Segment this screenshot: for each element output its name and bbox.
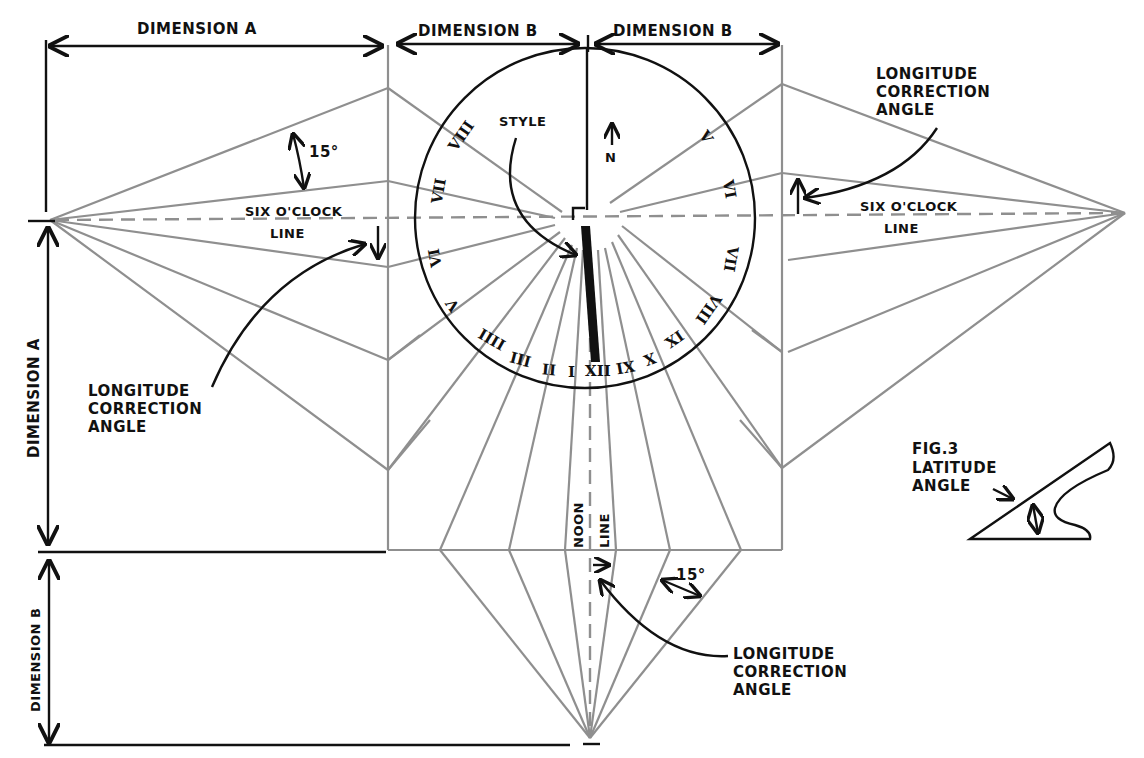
angle-15-top-label: 15° (309, 143, 339, 161)
right-angle-mark (573, 208, 585, 220)
left-hour-line (50, 220, 388, 267)
left-longitude-leader (212, 244, 365, 387)
six-oclock-left-label-1: SIX O'CLOCK (245, 204, 342, 219)
right-hour-line (788, 213, 1125, 352)
fig3-caption: LATITUDE ANGLE (912, 459, 997, 495)
noon-label-1: NOON (571, 502, 586, 548)
dial-line (598, 250, 616, 550)
dial-line (612, 242, 741, 550)
dial-line (388, 238, 565, 470)
dimension-b-vertical-label: DIMENSION B (28, 608, 43, 712)
hour-numeral: II (541, 359, 557, 378)
dial-line (388, 88, 562, 212)
longitude-correction-bottom-label: LONGITUDE CORRECTION ANGLE (733, 645, 847, 699)
fig3-title: FIG.3 (912, 440, 959, 458)
connector (388, 420, 430, 470)
fig3-latitude-arrow (1033, 505, 1038, 533)
dial-line (388, 225, 555, 267)
dial-circle (415, 48, 755, 388)
six-oclock-left-label-2: LINE (270, 226, 305, 241)
dimension-b-left-label: DIMENSION B (418, 22, 538, 40)
dimension-a-top-label: DIMENSION A (137, 20, 257, 38)
hour-numeral: XI (615, 357, 636, 378)
style-leader (510, 138, 576, 255)
six-oclock-right-label-2: LINE (884, 221, 919, 236)
left-hour-line (50, 220, 388, 360)
dial-line (440, 245, 572, 550)
connector (752, 330, 782, 352)
style-label: STYLE (499, 114, 546, 129)
six-oclock-right-label-1: SIX O'CLOCK (860, 199, 957, 214)
right-hour-line (782, 213, 1125, 468)
north-label: N (605, 150, 616, 165)
style-gnomon (581, 226, 600, 362)
hour-numeral: XII (585, 362, 611, 380)
six-oclock-line (55, 213, 1120, 220)
right-hour-line (788, 213, 1125, 260)
dial-line (388, 181, 555, 218)
angle-15-bottom-label: 15° (676, 566, 706, 584)
noon-label-2: LINE (597, 513, 612, 548)
dial-line (610, 84, 782, 203)
hour-numeral: VI (719, 178, 740, 199)
connector (388, 335, 420, 360)
bottom-hour-line (440, 550, 590, 738)
dimension-b-right-label: DIMENSION B (613, 22, 733, 40)
angle-15-top-arrow (293, 134, 304, 188)
longitude-correction-left-label: LONGITUDE CORRECTION ANGLE (88, 382, 202, 436)
connector (740, 420, 782, 468)
right-longitude-leader (805, 128, 937, 198)
hour-numeral: VI (425, 247, 446, 268)
hour-numeral: I (568, 363, 575, 381)
longitude-correction-right-label: LONGITUDE CORRECTION ANGLE (876, 65, 990, 119)
dimension-a-vertical-label: DIMENSION A (25, 338, 43, 458)
